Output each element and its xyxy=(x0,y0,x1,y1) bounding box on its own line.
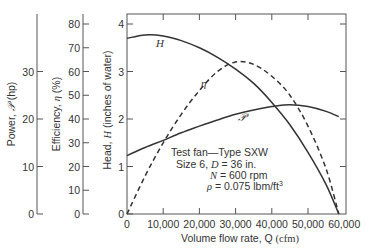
tick-label: 50 xyxy=(68,89,80,101)
tick-label: 30 xyxy=(22,66,34,78)
tick-label: 2 xyxy=(118,113,124,125)
tick-label: 20 xyxy=(22,113,34,125)
power-axis: 0102030 xyxy=(22,14,43,220)
x-tick-label: 40,000 xyxy=(256,218,288,230)
right-ticks xyxy=(340,24,346,167)
annotation-density: ρ = 0.075 lbm/ft3 xyxy=(206,180,283,192)
tick-label: 70 xyxy=(68,42,80,54)
x-tick-label: 0 xyxy=(124,218,130,230)
tick-label: 3 xyxy=(118,66,124,78)
fan-performance-chart: 0102030 Power, 𝒫 (hp) 01020304050607080 … xyxy=(0,0,373,252)
curve-label-power: 𝒫 xyxy=(238,111,249,123)
head-axis: 01234 xyxy=(118,18,133,220)
tick-label: 0 xyxy=(74,208,80,220)
tick-label: 80 xyxy=(68,18,80,30)
x-tick-label: 10,000 xyxy=(147,218,179,230)
x-tick-label: 30,000 xyxy=(220,218,252,230)
x-tick-label: 50,000 xyxy=(292,218,324,230)
tick-label: 1 xyxy=(118,161,124,173)
tick-label: 40 xyxy=(68,113,80,125)
power-axis-title: Power, 𝒫 (hp) xyxy=(5,82,17,147)
efficiency-axis: 01020304050607080 xyxy=(68,14,89,220)
x-axis-title: Volume flow rate, Q (cfm) xyxy=(181,232,299,245)
head-axis-title: Head, H (inches of water) xyxy=(101,50,113,169)
tick-label: 30 xyxy=(68,137,80,149)
efficiency-axis-title: Efficiency, η (%) xyxy=(50,77,62,151)
tick-label: 4 xyxy=(118,18,124,30)
tick-label: 10 xyxy=(22,161,34,173)
tick-label: 20 xyxy=(68,161,80,173)
x-tick-label: 20,000 xyxy=(183,218,215,230)
curve-label-efficiency: η xyxy=(201,77,206,89)
tick-label: 0 xyxy=(28,208,34,220)
annotation-fan-type: Test fan—Type SXW xyxy=(171,146,268,158)
tick-label: 60 xyxy=(68,66,80,78)
curve-label-head: H xyxy=(155,37,165,49)
tick-label: 10 xyxy=(68,184,80,196)
x-tick-label: 60,000 xyxy=(328,218,360,230)
